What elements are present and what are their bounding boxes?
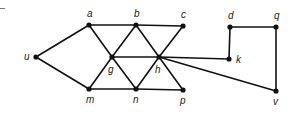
node-label-b: b [134, 8, 140, 19]
edge-u-a [36, 25, 89, 57]
nodes-group [33, 22, 278, 93]
node-label-p: p [179, 95, 186, 106]
node-d [227, 24, 232, 29]
node-v [273, 88, 278, 93]
edge-b-g [112, 25, 136, 57]
node-k [226, 56, 231, 61]
node-n [133, 86, 138, 91]
node-label-a: a [87, 8, 93, 19]
edge-n-p [136, 89, 183, 90]
node-label-k: k [236, 54, 242, 65]
edge-b-c [136, 25, 183, 26]
node-m [86, 86, 91, 91]
node-label-m: m [86, 94, 94, 105]
node-label-d: d [228, 10, 234, 21]
edge-c-h [159, 26, 183, 57]
edge-d-k [229, 27, 230, 59]
edge-a-g [89, 25, 112, 57]
node-label-n: n [133, 94, 139, 105]
edge-b-h [136, 25, 159, 57]
node-c [180, 23, 185, 28]
node-label-v: v [273, 96, 279, 107]
node-label-u: u [24, 51, 30, 62]
edge-g-n [112, 57, 136, 89]
node-g [109, 54, 114, 59]
node-b [133, 22, 138, 27]
edge-u-m [36, 57, 89, 89]
graph-diagram: uabcdqghkmnpv [0, 0, 296, 117]
node-u [33, 54, 38, 59]
node-q [273, 24, 278, 29]
node-label-g: g [108, 64, 114, 75]
node-label-c: c [181, 9, 186, 20]
edge-h-k [159, 57, 229, 59]
node-p [180, 87, 185, 92]
node-label-q: q [274, 10, 280, 21]
edge-h-p [159, 57, 183, 90]
edge-h-v [159, 57, 276, 91]
node-h [156, 54, 161, 59]
node-a [86, 22, 91, 27]
node-label-h: h [155, 64, 161, 75]
